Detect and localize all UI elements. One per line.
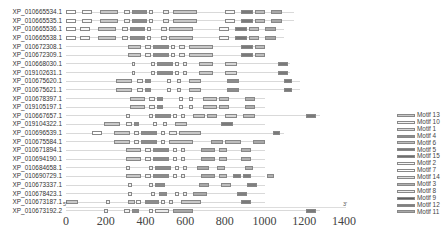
- motif-block: [163, 122, 167, 126]
- motif-block: [199, 71, 213, 75]
- motif-block: [278, 62, 288, 66]
- sequence-label: XP_010673337.1: [0, 181, 62, 188]
- motif-block: [183, 192, 187, 196]
- motif-block: [211, 140, 223, 144]
- motif-block: [177, 79, 181, 83]
- sequence-label: XP_010668030.1: [0, 60, 62, 67]
- motif-block: [227, 79, 239, 83]
- legend-swatch-icon: [397, 190, 415, 193]
- sequence-label: XP_010684658.1: [0, 164, 62, 171]
- legend-swatch-icon: [397, 169, 415, 172]
- sequence-label: XP_010665536.1: [0, 25, 62, 32]
- sequence-label: XP_010675620.1: [0, 77, 62, 84]
- motif-block: [132, 62, 136, 66]
- x-tick-label: 400: [136, 214, 154, 229]
- motif-block: [225, 71, 237, 75]
- motif-block: [201, 174, 215, 178]
- sequence-track: [66, 81, 300, 82]
- motif-block: [145, 157, 151, 161]
- motif-block: [82, 10, 92, 14]
- sequence-label: XP_010672308.1: [0, 43, 62, 50]
- motif-block: [175, 122, 187, 126]
- motif-block: [145, 45, 151, 49]
- motif-block: [128, 53, 142, 57]
- motif-block: [126, 174, 142, 178]
- motif-block: [175, 192, 179, 196]
- motif-block: [233, 174, 241, 178]
- motif-block: [284, 79, 292, 83]
- motif-block: [189, 88, 201, 92]
- motif-block: [225, 10, 235, 14]
- motif-block: [134, 122, 140, 126]
- motif-block: [241, 10, 253, 14]
- sequence-label: XP_010665534.1: [0, 8, 62, 15]
- sequence-label: XP_010678423.1: [0, 190, 62, 197]
- x-tick-label: 200: [97, 214, 115, 229]
- motif-block: [134, 140, 140, 144]
- x-tick-label: 800: [216, 214, 234, 229]
- motif-block: [141, 131, 157, 135]
- motif-block: [124, 19, 130, 23]
- motif-block: [219, 174, 227, 178]
- motif-block: [128, 200, 136, 204]
- motif-block: [114, 140, 130, 144]
- motif-block: [253, 140, 265, 144]
- motif-block: [249, 27, 259, 31]
- motif-block: [243, 174, 251, 178]
- sequence-label: XP_010696539.1: [0, 129, 62, 136]
- motif-block: [219, 36, 229, 40]
- motif-block: [130, 97, 146, 101]
- motif-block: [151, 62, 155, 66]
- motif-block: [132, 19, 148, 23]
- five-prime-label: 5': [63, 201, 67, 207]
- motif-block: [173, 157, 177, 161]
- legend-item: Motif 11: [397, 208, 439, 215]
- motif-block: [247, 183, 257, 187]
- legend-swatch-icon: [397, 121, 415, 124]
- legend-swatch-icon: [397, 148, 415, 151]
- motif-block: [145, 53, 151, 57]
- motif-block: [128, 45, 142, 49]
- motif-block: [116, 88, 132, 92]
- motif-block: [126, 157, 142, 161]
- motif-block: [171, 45, 175, 49]
- motif-block: [100, 10, 118, 14]
- motif-block: [126, 114, 130, 118]
- motif-block: [147, 36, 151, 40]
- motif-block: [80, 36, 90, 40]
- motif-block: [149, 105, 155, 109]
- motif-block: [126, 122, 132, 126]
- motif-block: [175, 71, 179, 75]
- motif-block: [134, 131, 140, 135]
- motif-block: [203, 97, 217, 101]
- motif-block: [137, 79, 143, 83]
- motif-block: [219, 27, 229, 31]
- motif-block: [157, 105, 163, 109]
- motif-block: [219, 148, 227, 152]
- legend-swatch-icon: [397, 155, 415, 158]
- motif-block: [104, 209, 108, 213]
- motif-block: [255, 19, 265, 23]
- motif-block: [141, 140, 157, 144]
- x-tick-label: 1200: [292, 214, 316, 229]
- motif-block: [157, 71, 173, 75]
- x-tick-label: 600: [176, 214, 194, 229]
- motif-block: [267, 174, 275, 178]
- motif-block: [225, 140, 241, 144]
- legend-swatch-icon: [397, 135, 415, 138]
- motif-block: [175, 62, 179, 66]
- motif-block: [155, 209, 169, 213]
- sequence-label: XP_019105197.1: [0, 103, 62, 110]
- motif-block: [66, 27, 76, 31]
- motif-block: [284, 88, 292, 92]
- motif-block: [149, 183, 153, 187]
- motif-block: [181, 157, 185, 161]
- motif-block: [128, 183, 132, 187]
- legend-swatch-icon: [397, 162, 415, 165]
- motif-block: [116, 79, 132, 83]
- legend-swatch-icon: [397, 210, 415, 213]
- motif-block: [149, 19, 153, 23]
- motif-block: [98, 27, 116, 31]
- motif-block: [124, 10, 130, 14]
- motif-block: [132, 71, 136, 75]
